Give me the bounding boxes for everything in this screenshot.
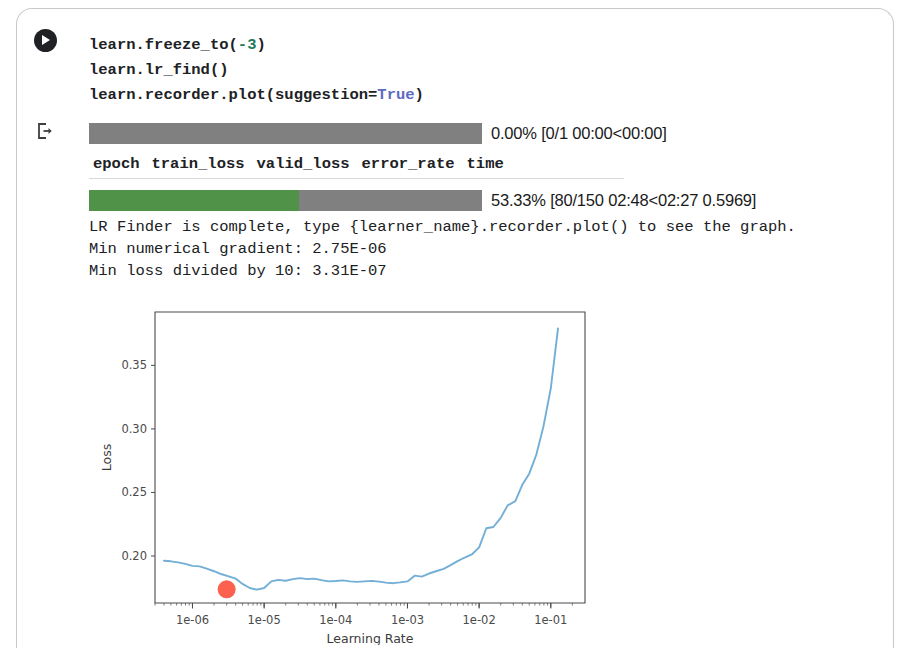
run-cell-button[interactable] [23,29,67,52]
metrics-table-header-row: epoch train_loss valid_loss error_rate t… [89,155,516,178]
y-tick-label: 0.20 [121,549,147,563]
suggested-lr-marker [218,580,236,598]
output-log-line: Min numerical gradient: 2.75E-06 [89,238,902,260]
x-tick-label: 1e-02 [463,613,496,627]
loss-curve [164,329,558,590]
metrics-table: epoch train_loss valid_loss error_rate t… [89,155,516,178]
epoch-progress-label: 0.00% [0/1 00:00<00:00] [491,124,667,143]
output-log-lines: LR Finder is complete, type {learner_nam… [89,216,902,282]
cell-output-icon [23,121,67,141]
x-tick-label: 1e-05 [248,613,281,627]
column-header-error-rate: error_rate [362,155,467,178]
output-arrow-icon [35,121,55,141]
cell-source-code[interactable]: learn.freeze_to(-3) learn.lr_find() lear… [89,33,424,108]
code-line-2: learn.lr_find() [89,61,229,79]
epoch-progress-row: 0.00% [0/1 00:00<00:00] [89,121,902,145]
output-log-line: LR Finder is complete, type {learner_nam… [89,216,902,238]
x-tick-label: 1e-04 [319,613,352,627]
column-header-train-loss: train_loss [152,155,257,178]
y-tick-label: 0.25 [121,485,147,499]
code-text: ) [256,36,265,54]
epoch-progress-bar [89,123,482,144]
code-text: learn.freeze_to( [89,36,238,54]
column-header-valid-loss: valid_loss [257,155,362,178]
y-tick-label: 0.30 [121,422,147,436]
x-tick-label: 1e-03 [391,613,424,627]
y-tick-label: 0.35 [121,358,147,372]
lr-finder-chart: 0.200.250.300.351e-061e-051e-041e-031e-0… [89,299,609,645]
output-log-line: Min loss divided by 10: 3.31E-07 [89,260,902,282]
x-tick-label: 1e-06 [176,613,209,627]
column-header-time: time [467,155,516,178]
x-tick-label: 1e-01 [534,613,567,627]
y-axis-title: Loss [99,444,114,471]
cell-output-area: 0.00% [0/1 00:00<00:00] epoch train_loss… [89,121,902,282]
batch-progress-row: 53.33% [80/150 02:48<02:27 0.5969] [89,188,902,212]
code-number-token: -3 [238,36,257,54]
code-line-1: learn.freeze_to(-3) [89,36,266,54]
batch-progress-label: 53.33% [80/150 02:48<02:27 0.5969] [491,191,756,210]
notebook-cell-card: learn.freeze_to(-3) learn.lr_find() lear… [16,8,894,648]
play-icon [34,29,57,52]
table-divider [89,178,624,179]
code-keyword-token: True [377,86,414,104]
chart-svg: 0.200.250.300.351e-061e-051e-041e-031e-0… [89,299,609,645]
column-header-epoch: epoch [89,155,152,178]
code-text: learn.recorder.plot(suggestion= [89,86,377,104]
batch-progress-fill [89,190,299,211]
code-line-3: learn.recorder.plot(suggestion=True) [89,86,424,104]
code-text: ) [415,86,424,104]
batch-progress-bar [89,190,482,211]
x-axis-title: Learning Rate [327,631,414,645]
